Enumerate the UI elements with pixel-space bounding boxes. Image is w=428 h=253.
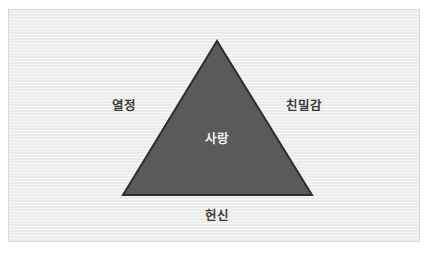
label-intimacy: 친밀감 [286, 95, 323, 114]
label-passion: 열정 [112, 95, 136, 114]
figure-panel: 열정 친밀감 사랑 헌신 [8, 9, 420, 242]
label-commitment: 헌신 [205, 205, 229, 224]
label-love: 사랑 [205, 128, 229, 147]
triangle-polygon [123, 41, 312, 195]
